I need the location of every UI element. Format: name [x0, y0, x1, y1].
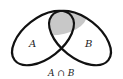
- venn-diagram: A B A ∩ B: [0, 0, 123, 79]
- intersection-label: A ∩ B: [47, 68, 75, 78]
- set-a-label: A: [28, 38, 36, 49]
- set-b-label: B: [84, 38, 92, 49]
